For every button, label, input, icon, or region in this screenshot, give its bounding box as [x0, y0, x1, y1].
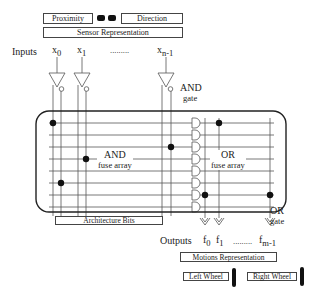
left-wheel-label: Left Wheel — [189, 272, 223, 281]
fuse-dot — [267, 192, 273, 198]
and-gate-8 — [192, 202, 200, 212]
inverter-bubble-x1 — [84, 87, 89, 92]
and-array-label: AND fuse array — [97, 150, 133, 170]
fuse-dot — [216, 120, 222, 126]
left-wheel-indicator — [232, 268, 236, 287]
right-wheel-label: Right Wheel — [253, 272, 291, 281]
or-gate-f0 — [200, 218, 210, 225]
motions-representation-box: Motions Representation — [180, 252, 277, 262]
and-gate-7 — [192, 190, 200, 200]
architecture-bits-box: Architecture Bits — [55, 216, 163, 225]
and-gate-2 — [192, 130, 200, 140]
and-gate-3 — [192, 142, 200, 152]
output-f0: f0 — [203, 234, 211, 249]
fuse-dot — [50, 120, 56, 126]
fuse-dot — [168, 144, 174, 150]
fuse-dot — [58, 180, 64, 186]
and-gate-6 — [192, 178, 200, 188]
left-wheel-box: Left Wheel — [183, 272, 229, 281]
pla-frame — [36, 111, 286, 212]
output-ellipsis: ......... — [233, 236, 252, 247]
fuse-dot — [83, 156, 89, 162]
output-f1: f1 — [216, 234, 224, 249]
inverter-bubble-x0 — [59, 87, 64, 92]
buffer-gate-xn — [158, 73, 174, 87]
or-gate-f1 — [214, 218, 224, 225]
and-gate-4 — [192, 154, 200, 164]
and-gate-1 — [192, 118, 200, 128]
inverter-bubble-xn — [168, 87, 173, 92]
output-fm: fm-1 — [259, 234, 276, 249]
motions-representation-label: Motions Representation — [193, 253, 265, 262]
or-array-label: OR fuse array — [210, 150, 246, 170]
fuse-dot — [202, 192, 208, 198]
right-wheel-box: Right Wheel — [247, 272, 297, 281]
or-gate-label: OR gate — [270, 206, 284, 226]
buffer-gate-x1 — [74, 73, 90, 87]
outputs-label: Outputs — [160, 235, 192, 246]
buffer-gate-x0 — [49, 73, 65, 87]
architecture-bits-label: Architecture Bits — [83, 216, 134, 225]
right-wheel-indicator — [300, 267, 304, 286]
and-gate-5 — [192, 166, 200, 176]
